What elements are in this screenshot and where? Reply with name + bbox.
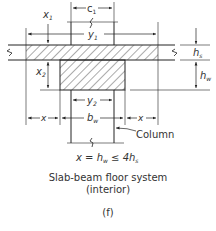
svg-text:bw: bw — [87, 112, 98, 124]
svg-text:x: x — [40, 113, 47, 123]
dim-y1: y1 — [28, 29, 156, 41]
svg-text:x: x — [137, 113, 144, 123]
slab-beam-diagram: c1 x1 y1 x2 hs hw y2 x bw — [0, 0, 216, 231]
dim-y2: y2 — [73, 95, 112, 107]
dim-x2: x2 — [35, 62, 48, 88]
caption-title: Slab-beam floor system — [0, 172, 216, 183]
svg-text:Column: Column — [136, 129, 174, 140]
beam-web — [60, 60, 125, 90]
figure-label: (f) — [0, 207, 216, 218]
svg-text:x2: x2 — [35, 66, 46, 78]
dim-x-right: x — [127, 113, 156, 123]
break-symbol-bottom — [90, 138, 93, 147]
svg-text:y2: y2 — [86, 95, 97, 107]
formula: x = hw ≤ 4hs — [75, 152, 139, 164]
svg-text:y1: y1 — [87, 29, 98, 41]
svg-text:x1: x1 — [42, 9, 53, 21]
break-symbol-top — [90, 18, 93, 28]
dim-x-left: x — [28, 113, 58, 123]
svg-text:c1: c1 — [87, 3, 97, 15]
caption-subtitle: (interior) — [0, 184, 216, 195]
svg-text:hw: hw — [200, 70, 211, 82]
slab — [7, 45, 177, 60]
dim-x1: x1 — [42, 9, 53, 43]
dim-hw: hw — [196, 62, 211, 88]
break-symbol-left — [7, 49, 12, 56]
break-symbol-right — [172, 49, 177, 56]
dim-hs: hs — [193, 28, 202, 59]
svg-text:hs: hs — [193, 47, 202, 59]
dim-c1: c1 — [73, 3, 112, 15]
column-callout: Column — [116, 128, 174, 140]
